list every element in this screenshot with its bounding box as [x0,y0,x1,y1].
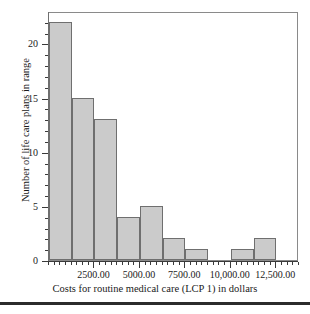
histogram-bar [163,238,186,260]
y-tick-minor [45,34,48,35]
x-tick-minor [287,262,288,265]
x-tick-minor [213,262,214,265]
x-tick-minor [88,262,89,265]
x-tick-minor [105,262,106,265]
x-tick-major [275,262,276,268]
x-tick-minor [145,262,146,265]
y-tick-minor [45,131,48,132]
x-tick-minor [190,262,191,265]
plot-area [49,13,297,260]
histogram-bar [94,119,117,260]
y-axis-line [48,12,49,261]
x-tick-minor [54,262,55,265]
histogram-bar [49,22,72,260]
x-tick-minor [270,262,271,265]
x-tick-minor [207,262,208,265]
y-tick-minor [45,229,48,230]
histogram-bar [117,217,140,260]
y-tick-minor [45,142,48,143]
x-tick-minor [76,262,77,265]
x-tick-minor [48,262,49,265]
x-tick-minor [116,262,117,265]
x-tick-minor [65,262,66,265]
x-tick-minor [224,262,225,265]
x-tick-major [93,262,94,268]
y-tick-label: 0 [0,256,38,266]
x-tick-minor [258,262,259,265]
x-tick-minor [167,262,168,265]
y-tick-major [42,153,48,154]
y-tick-minor [45,55,48,56]
histogram-bar [254,238,277,260]
x-tick-minor [156,262,157,265]
y-tick-minor [45,164,48,165]
x-tick-minor [128,262,129,265]
y-tick-label: 5 [0,202,38,212]
y-tick-major [42,44,48,45]
y-tick-minor [45,109,48,110]
plot-frame [48,12,298,261]
histogram-figure: 05101520 2500.005000.007500.0010,000.001… [0,0,310,314]
x-tick-minor [162,262,163,265]
y-axis-title: Number of life care plans in range [20,20,32,240]
x-tick-minor [71,262,72,265]
x-tick-minor [281,262,282,265]
histogram-bar [231,249,254,260]
y-tick-major [42,99,48,100]
x-tick-major [184,262,185,268]
x-tick-minor [196,262,197,265]
bottom-rule [0,302,310,305]
y-tick-major [42,207,48,208]
x-tick-minor [292,262,293,265]
x-tick-major [139,262,140,268]
y-tick-label: 20 [0,39,38,49]
x-tick-minor [298,262,299,265]
x-tick-minor [150,262,151,265]
histogram-bar [140,206,163,260]
y-tick-minor [45,88,48,89]
y-tick-minor [45,23,48,24]
histogram-bar [72,98,95,260]
y-tick-minor [45,66,48,67]
y-tick-minor [45,218,48,219]
x-tick-minor [201,262,202,265]
histogram-bar [185,249,208,260]
x-tick-minor [236,262,237,265]
x-tick-minor [218,262,219,265]
x-tick-minor [247,262,248,265]
y-tick-minor [45,77,48,78]
x-tick-minor [82,262,83,265]
x-tick-minor [241,262,242,265]
y-tick-label: 10 [0,148,38,158]
x-tick-minor [99,262,100,265]
x-tick-minor [264,262,265,265]
y-tick-minor [45,120,48,121]
x-tick-minor [133,262,134,265]
x-tick-minor [122,262,123,265]
y-tick-minor [45,185,48,186]
x-tick-minor [179,262,180,265]
y-tick-minor [45,239,48,240]
x-tick-label: 12,500.00 [240,269,310,280]
x-tick-minor [173,262,174,265]
y-tick-minor [45,250,48,251]
x-tick-minor [59,262,60,265]
x-tick-minor [111,262,112,265]
y-tick-label: 15 [0,94,38,104]
y-tick-minor [45,174,48,175]
x-tick-minor [253,262,254,265]
x-tick-major [230,262,231,268]
y-tick-minor [45,196,48,197]
x-axis-title: Costs for routine medical care (LCP 1) i… [0,283,310,295]
